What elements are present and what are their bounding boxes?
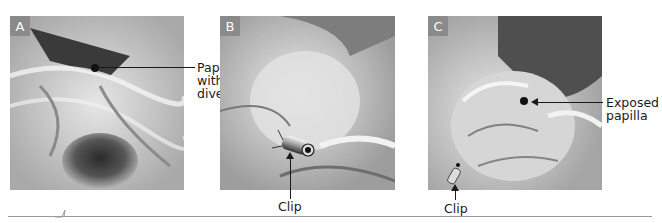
footer-divider [8, 216, 652, 217]
panel-badge-a: A [10, 16, 30, 36]
panel-c: C [428, 16, 602, 190]
arrowhead-clip-b [286, 152, 294, 159]
panel-badge-b: B [220, 16, 240, 36]
label-exposed-papilla: Exposed papilla [606, 96, 659, 122]
panel-a-illustration [10, 16, 184, 190]
panel-badge-c: C [428, 16, 448, 36]
panel-b-illustration [220, 16, 395, 190]
leader-arrow-clip-b [290, 156, 291, 199]
leader-line-papilla [95, 67, 195, 68]
arrowhead-clip-c [451, 184, 459, 191]
panel-a: A [10, 16, 184, 190]
panel-c-illustration [428, 16, 602, 190]
leader-arrow-exposed-papilla [537, 102, 603, 103]
panel-b: B [220, 16, 395, 190]
label-clip-c: Clip [444, 202, 468, 215]
label-clip-b: Clip [278, 200, 302, 213]
footer-tick-mark [55, 208, 69, 218]
arrowhead-exposed-papilla [531, 98, 538, 106]
